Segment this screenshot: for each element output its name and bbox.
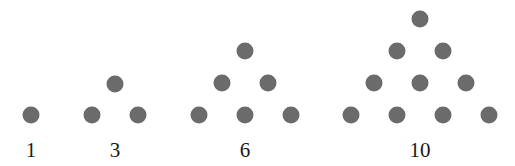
dot — [481, 107, 498, 124]
figure-label: 6 — [240, 140, 251, 161]
dot — [260, 75, 277, 92]
dot — [283, 107, 300, 124]
dot — [389, 43, 406, 60]
dot — [107, 76, 124, 93]
figure-label: 1 — [26, 140, 37, 161]
dot — [237, 43, 254, 60]
dot — [237, 107, 254, 124]
dot — [23, 107, 40, 124]
dot — [84, 107, 101, 124]
dot — [366, 75, 383, 92]
dot — [130, 107, 147, 124]
dot — [412, 75, 429, 92]
triangular-numbers-diagram: 1 3 6 10 — [0, 0, 515, 166]
dot — [435, 107, 452, 124]
dot — [214, 75, 231, 92]
dot — [343, 107, 360, 124]
dot — [191, 107, 208, 124]
dot — [412, 11, 429, 28]
dot — [458, 75, 475, 92]
figure-label: 3 — [110, 140, 121, 161]
dot — [389, 107, 406, 124]
figure-label: 10 — [410, 140, 431, 161]
dot — [435, 43, 452, 60]
